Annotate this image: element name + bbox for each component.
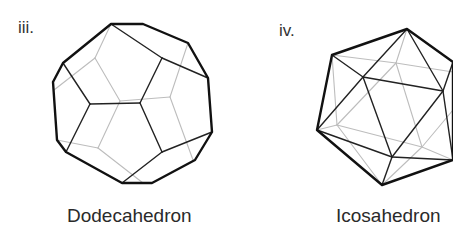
visible-edge <box>443 91 453 160</box>
hidden-edge <box>337 125 382 185</box>
visible-edge <box>363 77 392 157</box>
hidden-edge <box>382 147 422 185</box>
hidden-edge <box>332 55 337 125</box>
hidden-edge <box>54 58 95 90</box>
hidden-edge <box>170 43 188 97</box>
hidden-edge <box>170 97 193 160</box>
hidden-edge <box>95 58 120 101</box>
visible-edge <box>407 29 443 91</box>
visible-edge <box>162 132 212 152</box>
visible-edge <box>392 157 453 160</box>
visible-edge <box>90 103 140 104</box>
visible-edge <box>66 104 90 152</box>
caption-dodecahedron: Dodecahedron <box>67 205 192 227</box>
figure-label-iv: iv. <box>279 21 295 41</box>
hidden-edge <box>98 101 120 148</box>
polyhedra-diagram <box>0 0 453 231</box>
hidden-edge <box>98 148 143 183</box>
visible-edge <box>443 62 453 91</box>
figure-label-iii: iii. <box>18 18 34 38</box>
visible-edge <box>317 130 392 157</box>
visible-edge <box>140 58 162 103</box>
icosahedron-drawing <box>317 29 453 185</box>
visible-edge <box>140 103 162 152</box>
caption-icosahedron: Icosahedron <box>336 205 441 227</box>
visible-edge <box>63 63 90 104</box>
hidden-edge <box>120 97 170 101</box>
visible-edge <box>392 91 443 157</box>
visible-edge <box>363 77 443 91</box>
hidden-edge <box>337 125 422 147</box>
hidden-edge <box>396 63 453 72</box>
dodecahedron-drawing <box>53 24 212 183</box>
visible-edge <box>122 152 162 183</box>
